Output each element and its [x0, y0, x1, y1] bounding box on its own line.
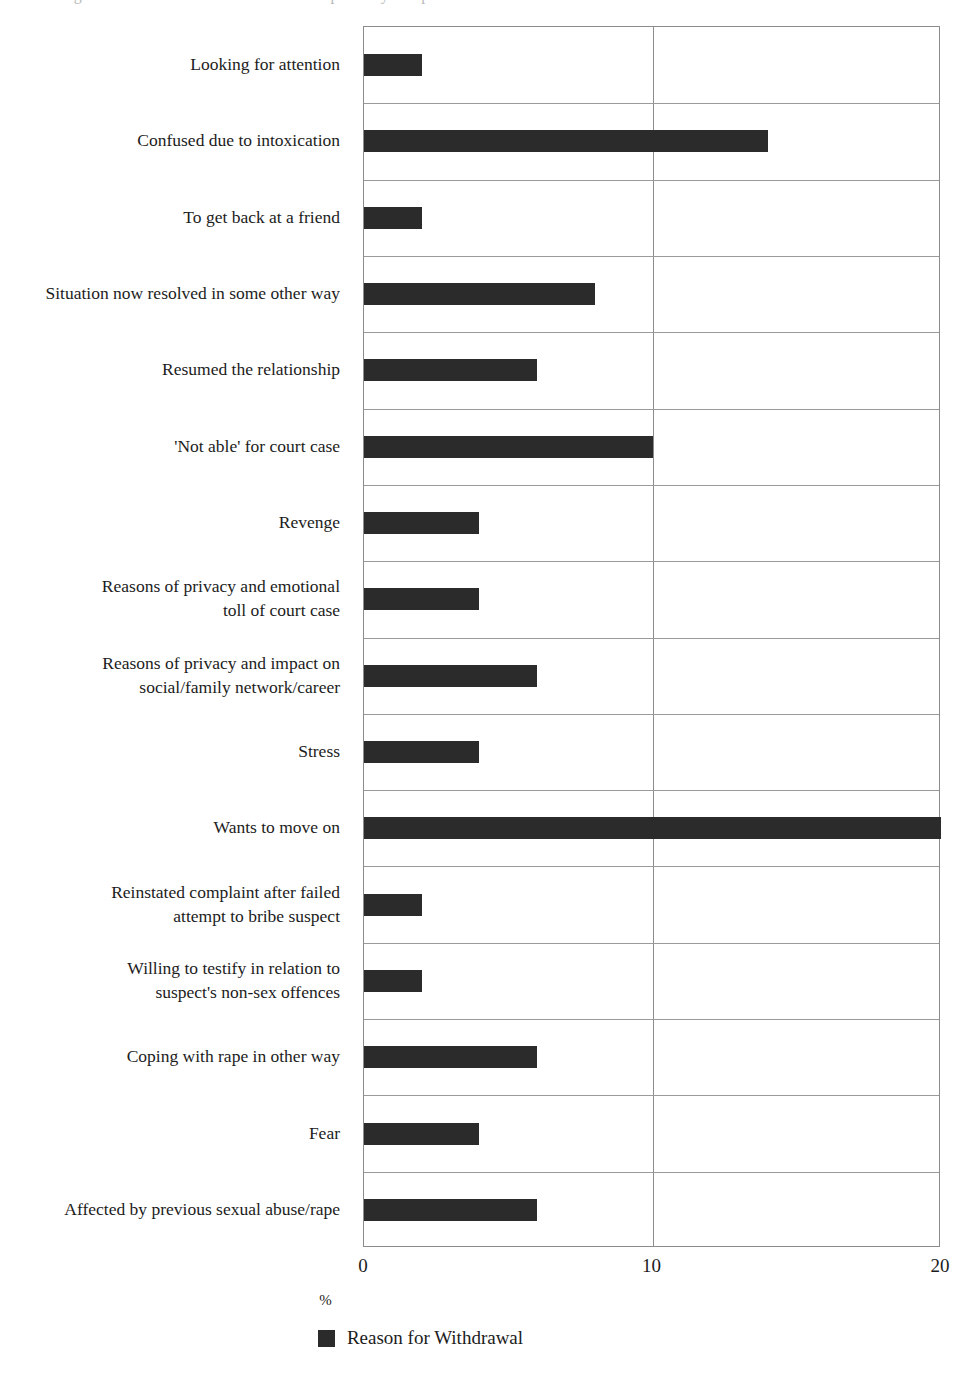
plot-area — [363, 26, 940, 1247]
category-separator — [364, 866, 939, 867]
category-separator — [364, 714, 939, 715]
category-label: Reinstated complaint after failed attemp… — [0, 880, 340, 928]
bar — [364, 54, 422, 76]
x-tick-label: 10 — [642, 1255, 661, 1277]
category-label: Coping with rape in other way — [0, 1044, 340, 1068]
bar — [364, 741, 479, 763]
category-label: Situation now resolved in some other way — [0, 281, 340, 305]
category-label: Fear — [0, 1121, 340, 1145]
category-axis-labels: Looking for attentionConfused due to int… — [0, 26, 352, 1247]
bar — [364, 588, 479, 610]
bar — [364, 1123, 479, 1145]
category-separator — [364, 1172, 939, 1173]
bar — [364, 130, 768, 152]
legend-label: Reason for Withdrawal — [347, 1327, 523, 1349]
x-tick-label: 20 — [931, 1255, 950, 1277]
category-label: Revenge — [0, 510, 340, 534]
bar — [364, 894, 422, 916]
category-label: Stress — [0, 739, 340, 763]
bar — [364, 1046, 537, 1068]
category-separator — [364, 409, 939, 410]
category-separator — [364, 1095, 939, 1096]
bar — [364, 817, 941, 839]
category-label: Confused due to intoxication — [0, 128, 340, 152]
category-label: Reasons of privacy and impact on social/… — [0, 651, 340, 699]
vertical-gridline — [653, 27, 654, 1246]
category-label: Resumed the relationship — [0, 357, 340, 381]
x-axis-tick-labels: 01020 — [0, 1255, 971, 1285]
legend-entry: Reason for Withdrawal — [318, 1327, 523, 1349]
category-separator — [364, 638, 939, 639]
category-separator — [364, 1019, 939, 1020]
bar — [364, 665, 537, 687]
bar — [364, 207, 422, 229]
category-label: 'Not able' for court case — [0, 434, 340, 458]
category-label: Willing to testify in relation to suspec… — [0, 956, 340, 1004]
bar — [364, 512, 479, 534]
chart-legend: Reason for Withdrawal — [0, 1327, 971, 1351]
category-separator — [364, 790, 939, 791]
category-label: Wants to move on — [0, 815, 340, 839]
category-label: To get back at a friend — [0, 205, 340, 229]
bar — [364, 1199, 537, 1221]
bar — [364, 436, 653, 458]
bar — [364, 359, 537, 381]
category-label: Looking for attention — [0, 52, 340, 76]
x-tick-label: 0 — [358, 1255, 368, 1277]
bar — [364, 970, 422, 992]
category-separator — [364, 943, 939, 944]
category-label: Reasons of privacy and emotional toll of… — [0, 574, 340, 622]
x-axis-title: % — [0, 1292, 971, 1309]
category-separator — [364, 332, 939, 333]
category-separator — [364, 485, 939, 486]
x-axis-title-text: % — [319, 1292, 332, 1309]
category-label: Affected by previous sexual abuse/rape — [0, 1197, 340, 1221]
category-separator — [364, 180, 939, 181]
legend-swatch-icon — [318, 1330, 335, 1347]
bar — [364, 283, 595, 305]
bar-chart: Looking for attentionConfused due to int… — [0, 0, 971, 1387]
category-separator — [364, 256, 939, 257]
category-separator — [364, 103, 939, 104]
category-separator — [364, 561, 939, 562]
